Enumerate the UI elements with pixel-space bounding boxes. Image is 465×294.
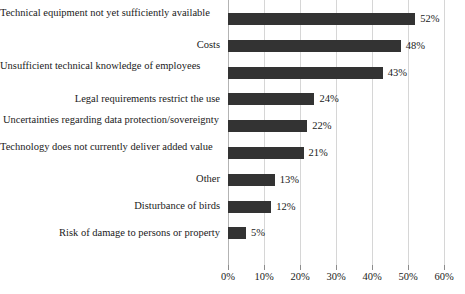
category-label: Risk of damage to persons or property [0, 227, 220, 239]
bar [228, 201, 271, 213]
bar-value-label: 12% [271, 201, 295, 213]
x-tick [444, 265, 445, 270]
x-tick-label: 50% [398, 271, 417, 283]
x-tick [300, 265, 301, 270]
category-label: Technical equipment not yet sufficiently… [0, 7, 222, 19]
bar [228, 174, 275, 186]
bar-value-label: 22% [307, 120, 331, 132]
x-tick-label: 30% [326, 271, 345, 283]
x-tick [228, 265, 229, 270]
bar [228, 13, 415, 25]
category-label: Costs [0, 39, 220, 51]
x-tick [264, 265, 265, 270]
bar-value-label: 52% [415, 13, 439, 25]
bar-value-label: 48% [401, 40, 425, 52]
category-label-column: Technical equipment not yet sufficiently… [0, 0, 224, 265]
category-label: Other [0, 173, 220, 185]
bar-value-label: 24% [314, 93, 338, 105]
bar [228, 227, 246, 239]
x-tick [336, 265, 337, 270]
category-label: Uncertainties regarding data protection/… [0, 114, 222, 126]
x-tick-label: 0% [221, 271, 235, 283]
bar-value-label: 21% [304, 147, 328, 159]
x-axis: 0%10%20%30%40%50%60% [228, 265, 444, 294]
x-tick-label: 10% [254, 271, 273, 283]
plot-area: 52%48%43%24%22%21%13%12%5% [228, 0, 444, 265]
bar [228, 120, 307, 132]
category-label: Technology does not currently deliver ad… [0, 141, 222, 153]
gridline-60% [444, 0, 445, 265]
bar [228, 93, 314, 105]
bar-value-label: 43% [383, 67, 407, 79]
category-label: Unsufficient technical knowledge of empl… [0, 60, 222, 72]
bar-value-label: 5% [246, 227, 265, 239]
bar [228, 67, 383, 79]
x-tick-label: 60% [434, 271, 453, 283]
x-tick [408, 265, 409, 270]
bar [228, 40, 401, 52]
bar-chart: Technical equipment not yet sufficiently… [0, 0, 465, 294]
category-label: Legal requirements restrict the use [0, 93, 220, 105]
category-label: Disturbance of birds [0, 200, 220, 212]
bar [228, 147, 304, 159]
x-tick-label: 20% [290, 271, 309, 283]
x-tick [372, 265, 373, 270]
x-tick-label: 40% [362, 271, 381, 283]
bar-value-label: 13% [275, 174, 299, 186]
